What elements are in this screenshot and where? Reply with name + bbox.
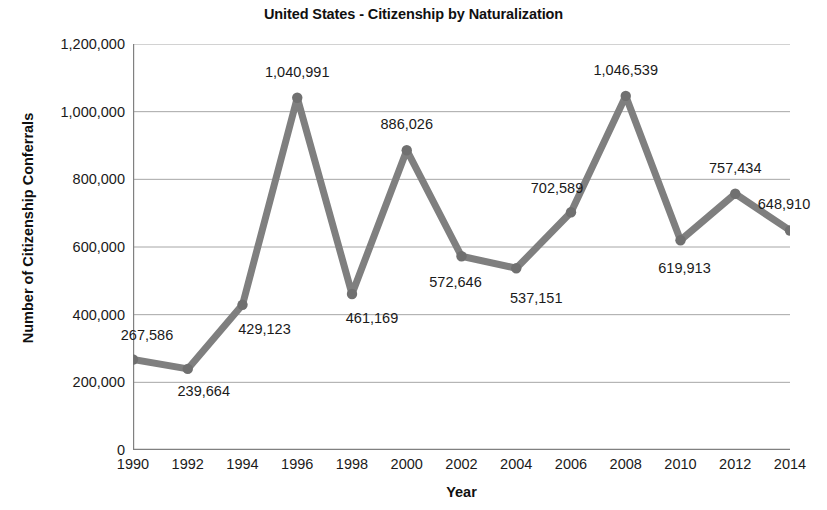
data-point-marker[interactable] — [566, 207, 576, 217]
data-point-marker[interactable] — [237, 300, 247, 310]
x-axis-tick-labels: 1990199219941996199820002002200420062008… — [133, 456, 790, 480]
line-chart-svg — [133, 44, 790, 450]
series-line — [133, 96, 790, 369]
y-axis-tick-labels: 0200,000400,000600,000800,0001,000,0001,… — [0, 44, 125, 450]
y-axis-tick-label: 1,000,000 — [5, 104, 125, 120]
y-axis-tick-label: 600,000 — [5, 239, 125, 255]
plot-area — [133, 44, 790, 450]
data-point-marker[interactable] — [402, 145, 412, 155]
data-point-marker[interactable] — [456, 251, 466, 261]
chart-container: United States - Citizenship by Naturaliz… — [0, 0, 827, 510]
y-axis-tick-label: 1,200,000 — [5, 36, 125, 52]
data-point-marker[interactable] — [675, 235, 685, 245]
x-axis-tick-label: 2014 — [755, 456, 825, 472]
y-axis-tick-label: 800,000 — [5, 171, 125, 187]
data-point-marker[interactable] — [347, 289, 357, 299]
x-axis-title: Year — [133, 484, 790, 500]
y-axis-tick-label: 400,000 — [5, 307, 125, 323]
data-point-marker[interactable] — [511, 263, 521, 273]
data-point-marker[interactable] — [730, 189, 740, 199]
data-point-marker[interactable] — [292, 93, 302, 103]
page-title: United States - Citizenship by Naturaliz… — [0, 6, 827, 22]
data-point-marker[interactable] — [621, 91, 631, 101]
y-axis-tick-label: 200,000 — [5, 374, 125, 390]
data-point-marker[interactable] — [183, 364, 193, 374]
